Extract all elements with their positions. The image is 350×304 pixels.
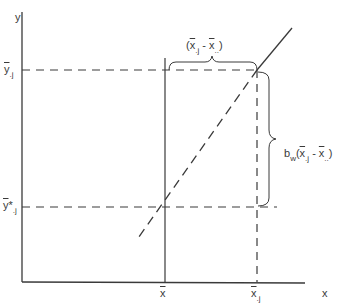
term-b-sub: .. bbox=[214, 46, 218, 55]
y-tick-group-mean-base: y bbox=[4, 63, 10, 75]
paren-close: ) bbox=[219, 39, 223, 51]
y-axis-label: y bbox=[15, 12, 21, 23]
horizontal-brace bbox=[169, 56, 257, 70]
y-tick-adjusted-mean-sub: .j bbox=[13, 206, 17, 215]
x-tick-group-mean: x.j bbox=[251, 288, 261, 299]
x-tick-grand-mean: x bbox=[160, 288, 166, 299]
term-b-sub: .. bbox=[324, 154, 328, 163]
x-tick-group-mean-base: x bbox=[251, 287, 257, 299]
paren-close: ) bbox=[329, 147, 333, 159]
adjustment-label: bw(x.j - x..) bbox=[284, 148, 332, 159]
term-a-sub: .j bbox=[305, 154, 309, 163]
term-a-sub: .j bbox=[195, 46, 199, 55]
regression-line-dashed bbox=[136, 70, 257, 241]
regression-line-solid bbox=[257, 28, 292, 70]
y-tick-group-mean-sub: .j bbox=[10, 70, 14, 79]
minus-sign: - bbox=[199, 39, 209, 51]
coef-sub: w bbox=[290, 154, 296, 163]
y-tick-adjusted-mean: y*.j bbox=[3, 200, 17, 211]
x-difference-label: (x.j - x..) bbox=[186, 40, 223, 51]
vertical-brace bbox=[258, 72, 276, 206]
y-tick-group-mean: y.j bbox=[4, 64, 14, 75]
x-tick-group-mean-sub: .j bbox=[257, 294, 261, 303]
minus-sign: - bbox=[309, 147, 319, 159]
x-tick-grand-mean-base: x bbox=[160, 287, 166, 299]
x-axis bbox=[22, 282, 305, 283]
x-axis-label: x bbox=[322, 288, 328, 299]
